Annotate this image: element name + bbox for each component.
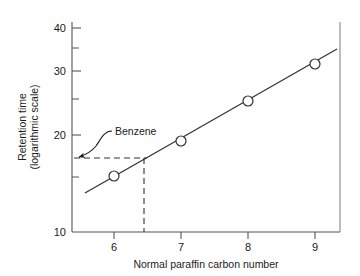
x-tick-label-8: 8 — [245, 241, 251, 253]
chart-figure: 40 30 20 10 6 7 8 9 Benzene — [0, 0, 360, 276]
data-point-c7 — [176, 136, 186, 146]
x-tick-label-9: 9 — [312, 241, 318, 253]
y-tick-label-30: 30 — [54, 65, 66, 77]
data-point-c8 — [243, 96, 253, 106]
x-tick-label-7: 7 — [178, 241, 184, 253]
data-point-c9 — [310, 59, 320, 69]
y-axis-title-line1: Retention time — [16, 93, 28, 161]
x-axis-title: Normal paraffin carbon number — [133, 258, 279, 270]
y-axis-title-line2: (logarithmic scale) — [28, 84, 40, 169]
y-tick-label-40: 40 — [54, 22, 66, 34]
retention-time-chart: 40 30 20 10 6 7 8 9 Benzene — [0, 0, 360, 276]
data-point-c6 — [109, 171, 119, 181]
x-tick-label-6: 6 — [111, 241, 117, 253]
y-tick-label-20: 20 — [54, 129, 66, 141]
y-tick-label-10: 10 — [54, 226, 66, 238]
benzene-annotation-label: Benzene — [115, 125, 157, 137]
